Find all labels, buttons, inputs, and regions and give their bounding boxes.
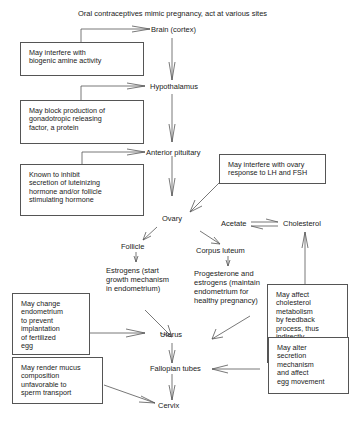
node-cholesterol: Cholesterol bbox=[283, 219, 321, 228]
box-gonadotropic-factor: May block production of gonadotropic rel… bbox=[20, 100, 144, 144]
node-estrogens: Estrogens (start growth mechanism in end… bbox=[106, 266, 169, 293]
box-mucus: May render mucus composition unfavorable… bbox=[12, 357, 103, 404]
box-endometrium: May change endometrium to prevent implan… bbox=[12, 293, 90, 355]
node-corpus-luteum: Corpus luteum bbox=[196, 246, 245, 255]
node-fallopian-tubes: Fallopian tubes bbox=[150, 364, 201, 373]
node-hypothalamus: Hypothalamus bbox=[150, 82, 198, 91]
box-ovary-response: May interfere with ovary response to LH … bbox=[219, 154, 326, 184]
box-biogenic-amine: May interfere with biogenic amine activi… bbox=[20, 42, 144, 76]
node-anterior-pituitary: Anterior pituitary bbox=[146, 148, 201, 157]
node-ovary: Ovary bbox=[162, 214, 182, 223]
diagram-title: Oral contraceptives mimic pregnancy, act… bbox=[78, 9, 267, 18]
box-lh-fsh-inhibit: Known to inhibit secretion of luteinizin… bbox=[20, 164, 144, 216]
diagram-canvas: Oral contraceptives mimic pregnancy, act… bbox=[0, 0, 359, 421]
node-uterus: Uterus bbox=[160, 330, 182, 339]
node-acetate: Acetate bbox=[221, 219, 246, 228]
node-brain: Brain (cortex) bbox=[151, 25, 196, 34]
node-cervix: Cervix bbox=[158, 401, 179, 410]
node-progesterone: Progesterone and estrogens (maintain end… bbox=[194, 269, 260, 305]
node-follicle: Follicle bbox=[121, 242, 144, 251]
box-secretion: May alter secretion mechanism and affect… bbox=[268, 337, 349, 394]
